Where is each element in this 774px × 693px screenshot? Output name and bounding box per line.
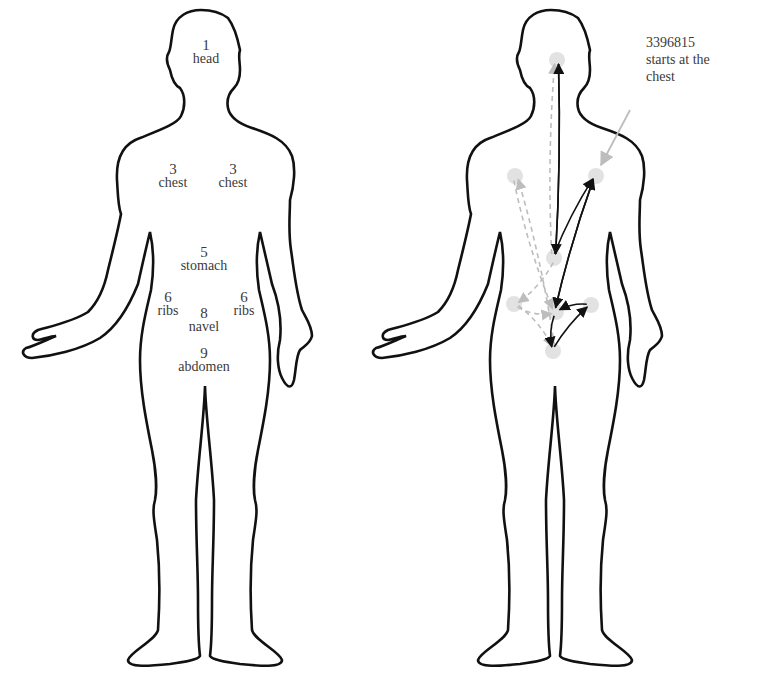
sequence-arrows [0,0,774,693]
dashed-arrow-chest-left-to-navel [514,181,553,309]
annotation-arrow [601,110,630,165]
node-abdomen [545,343,561,359]
dashed-arrow-stomach-to-head [550,64,555,254]
nodes [506,52,604,359]
diagram-canvas: 1 head 3 chest 3 chest 5 stomach 6 ribs … [0,0,774,693]
solid-arrow-ribs-right-to-navel [560,304,587,310]
solid-arrow-navel-to-chest-right [556,179,594,307]
annotation-line: starts at the [646,51,766,68]
node-chest-left [507,168,523,184]
solid-arrow-stomach-to-head [556,64,560,254]
dashed-arrow-ribs-left-to-abdomen [518,306,552,347]
solid-arrow-chest-right-to-navel [556,179,594,307]
node-head [549,52,565,68]
solid-arrow-stomach-to-chest-right [554,179,592,254]
annotation-line: chest [646,68,766,85]
node-ribs-left [506,296,522,312]
annotation-text: 3396815 starts at the chest [646,34,766,85]
node-stomach [546,250,562,266]
annotation-line: 3396815 [646,34,766,51]
node-ribs-right [583,297,599,313]
annotation-pointer-arrow [601,110,630,165]
